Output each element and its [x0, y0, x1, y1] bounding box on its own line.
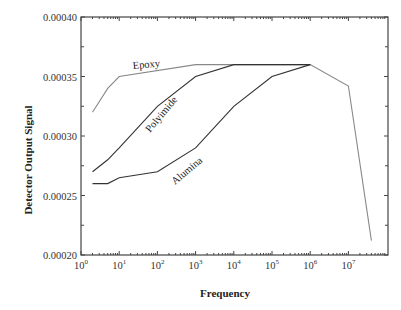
x-tick-label: 102: [150, 258, 165, 271]
label-epoxy: Epoxy: [132, 58, 161, 71]
x-axis-label: Frequency: [200, 287, 250, 299]
label-alumina: Alumina: [169, 154, 204, 186]
x-tick-label: 103: [189, 258, 204, 271]
y-tick-label: 0.00030: [43, 131, 77, 142]
y-tick-label: 0.00020: [43, 250, 77, 261]
series-line-alumina: [93, 65, 311, 184]
line-chart: 0.000200.000250.000300.000350.0004010010…: [0, 0, 401, 310]
series-line-epoxy: [93, 65, 372, 241]
plot-frame: [81, 17, 388, 255]
y-tick-label: 0.00035: [43, 72, 77, 83]
x-tick-label: 107: [341, 258, 356, 271]
label-polyimide: Polyimide: [143, 94, 179, 134]
x-tick-label: 100: [74, 258, 89, 271]
y-tick-label: 0.00040: [43, 12, 77, 23]
series-line-polyimide: [93, 65, 311, 172]
x-tick-label: 104: [227, 258, 242, 271]
x-tick-label: 106: [303, 258, 318, 271]
y-tick-label: 0.00025: [43, 191, 77, 202]
x-tick-label: 101: [112, 258, 127, 271]
y-axis-label-box: Detector Output Signal: [18, 70, 38, 250]
y-axis-label: Detector Output Signal: [22, 105, 34, 214]
x-tick-label: 105: [265, 258, 280, 271]
